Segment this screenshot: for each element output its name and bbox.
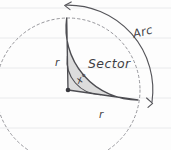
center-vertex-dot <box>66 88 71 93</box>
sector-label: Sector <box>88 56 131 71</box>
sector-diagram-canvas: Sector Arc r r x° <box>0 0 171 150</box>
radius-lower-label: r <box>99 108 104 120</box>
radius-upper-label: r <box>55 56 60 68</box>
sector-diagram-figure: Sector Arc r r x° <box>0 0 171 150</box>
arc-arrow-head-end <box>147 98 153 107</box>
